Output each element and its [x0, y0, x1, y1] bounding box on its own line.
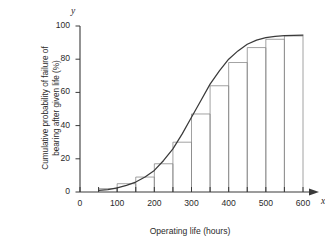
x-axis-label: Operating life (hours)	[80, 226, 300, 236]
histogram-bar	[247, 48, 266, 192]
histogram-bar	[284, 36, 303, 192]
y-tick-label: 40	[44, 120, 70, 130]
x-tick-label: 300	[179, 198, 205, 208]
x-tick-label: 0	[67, 198, 93, 208]
y-axis-label-line-2: bearing after given life (%)	[51, 20, 62, 196]
bars-group	[99, 36, 303, 192]
histogram-bar	[192, 114, 211, 192]
histogram-bar	[266, 39, 285, 192]
y-axis-label-line-1: Cumulative probability of failure of	[40, 20, 51, 196]
x-axis-letter: x	[321, 196, 325, 206]
x-tick-label: 600	[290, 198, 316, 208]
histogram-bar	[136, 177, 155, 192]
y-axis-label: Cumulative probability of failure of bea…	[40, 20, 72, 196]
y-axis-letter: y	[71, 6, 75, 16]
ogive-curve	[99, 35, 303, 190]
histogram-bar	[210, 86, 229, 192]
chart-figure: Cumulative probability of failure of bea…	[0, 0, 325, 244]
ogive-curve-group	[99, 35, 303, 190]
x-tick-label: 400	[216, 198, 242, 208]
y-tick-label: 80	[44, 53, 70, 63]
y-tick-label: 0	[44, 186, 70, 196]
y-tick-label: 20	[44, 153, 70, 163]
x-tick-label: 500	[253, 198, 279, 208]
x-tick-label: 100	[104, 198, 130, 208]
histogram-bar	[173, 142, 192, 192]
x-axis-arrow-icon	[309, 188, 319, 195]
histogram-bar	[229, 63, 248, 192]
y-tick-label: 60	[44, 86, 70, 96]
axes-group	[76, 26, 320, 196]
y-tick-label: 100	[44, 20, 70, 30]
x-tick-label: 200	[141, 198, 167, 208]
